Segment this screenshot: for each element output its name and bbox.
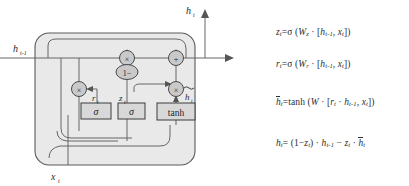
update-multiply-node: × — [120, 51, 135, 66]
input-hidden-var: h — [13, 43, 18, 54]
update-sigma-box: σ — [118, 103, 145, 119]
output-hidden-label: h t — [186, 5, 195, 18]
tanh-box: tanh — [157, 103, 195, 120]
reset-multiply-node: × — [72, 82, 87, 97]
one-minus-symbol: 1− — [123, 69, 132, 78]
candidate-multiply-node: × — [169, 82, 184, 97]
input-x-subscript: t — [58, 178, 60, 184]
reset-sigma-box: σ — [81, 103, 111, 119]
output-add-node: + — [169, 51, 184, 66]
input-x-var: x — [50, 171, 56, 182]
input-hidden-subscript: t-1 — [20, 50, 27, 56]
candidate-var: h — [185, 92, 190, 102]
reset-multiply-symbol: × — [77, 86, 82, 95]
gru-cell-figure: × × × + 1− σ σ — [0, 0, 409, 186]
reset-gate-var: r — [92, 93, 96, 103]
update-gate-equation: zt=σ (Wz · [ht-1, xt]) — [276, 27, 351, 37]
candidate-equation: ht=tanh (W · [rt · ht-1, xt]) — [276, 97, 374, 107]
arrow-output-up — [201, 9, 209, 18]
output-hidden-var: h — [186, 5, 191, 16]
tanh-label: tanh — [168, 108, 185, 118]
input-x-label: x t — [50, 171, 60, 184]
output-hidden-subscript: t — [193, 12, 195, 18]
input-hidden-label: h t-1 — [13, 43, 27, 56]
one-minus-node: 1− — [116, 65, 138, 80]
arrow-output-right — [225, 54, 234, 62]
update-gate-var: z — [118, 93, 123, 103]
update-multiply-symbol: × — [125, 55, 130, 64]
candidate-multiply-symbol: × — [174, 86, 179, 95]
reset-gate-equation: rt=σ (Wr · [ht-1, xt]) — [276, 59, 351, 69]
output-equation: ht= (1−zt) · ht-1 − zt · ht — [276, 138, 365, 148]
output-add-symbol: + — [173, 54, 178, 64]
